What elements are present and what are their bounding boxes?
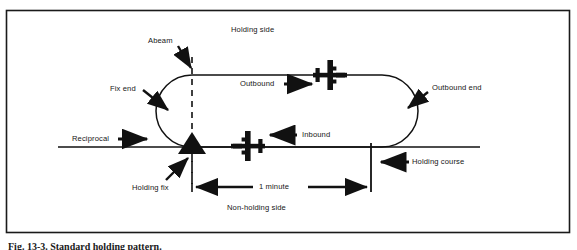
inbound-aircraft-icon [231,131,265,161]
label-holding-side: Holding side [231,26,274,34]
label-non-holding-side: Non-holding side [227,204,286,212]
label-outbound: Outbound [240,80,274,88]
holding-pattern-diagram [0,0,577,250]
figure-caption: Fig. 13-3. Standard holding pattern. [8,241,162,250]
label-fix-end: Fix end [110,85,136,93]
label-holding-fix: Holding fix [132,184,169,192]
abeam-leader [178,46,191,68]
label-abeam: Abeam [148,37,173,45]
label-reciprocal: Reciprocal [72,135,109,143]
figure-container: Holding side Non-holding side Abeam Fix … [0,0,577,250]
outbound-aircraft-icon [313,60,347,90]
label-one-minute: 1 minute [259,183,289,191]
label-outbound-end: Outbound end [432,84,482,92]
label-holding-course: Holding course [412,158,464,166]
label-inbound: Inbound [302,131,330,139]
holding-fix-leader [166,158,188,180]
figure-border [7,11,570,233]
